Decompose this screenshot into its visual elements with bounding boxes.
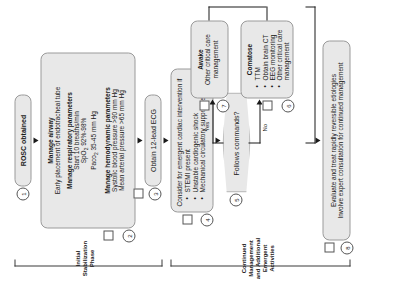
node-manage-airway-respiratory-hemodynamics[interactable]: Manage airway Early placement of endotra…	[40, 52, 135, 228]
phase-continued-line-5: Activities	[268, 224, 275, 283]
node-1-title: ROSC obtained	[19, 114, 27, 165]
edge-awake-merge	[208, 6, 209, 20]
node-7-title: Awake	[196, 23, 203, 95]
edge-merge-to-node8	[305, 6, 315, 7]
node-6-bullet-4: Other critical care management	[275, 24, 290, 85]
node-6-title: Comatose	[245, 24, 252, 94]
node-awake-pathway[interactable]: Awake Other critical care management	[190, 20, 228, 98]
node-2-group-1-heading: Manage airway	[46, 55, 53, 225]
phase-continued-line-2: Management	[247, 224, 254, 283]
node-7-checkbox[interactable]	[199, 100, 209, 110]
node-1-number: 1	[16, 187, 29, 200]
node-evaluate-reversible-etiologies[interactable]: Evaluate and treat rapidly reversible et…	[322, 40, 350, 240]
arrow-2-to-3	[137, 138, 142, 144]
edge-no-horizontal	[259, 104, 260, 144]
node-2-group-3-line-2: Mean arterial pressure >65 mm Hg	[117, 55, 124, 225]
node-2-group-2-line-3: Paco2 35-45 mm Hg	[89, 55, 99, 225]
node-4-number: 4	[200, 213, 213, 226]
node-6-number: 6	[281, 99, 294, 112]
node-2-group-2-line-1: Start 10 breaths/min	[72, 55, 79, 225]
phase-continued-line-3: and Additional	[254, 224, 261, 283]
phase-initial-line-2: Stabilization	[81, 228, 88, 283]
node-3-number: 3	[148, 187, 161, 200]
edge-no-vertical	[248, 142, 260, 143]
arrow-3-to-4	[163, 138, 168, 144]
node-rosc-obtained[interactable]: ROSC obtained	[14, 94, 31, 186]
node-2-checkbox[interactable]	[103, 230, 113, 240]
edge-label-yes: Yes	[203, 121, 209, 131]
node-8-line-1: Evaluate and treat rapidly reversible et…	[329, 74, 336, 207]
node-8-line-2: Involve expert consultation for continue…	[336, 62, 343, 218]
node-4-checkbox[interactable]	[182, 214, 192, 224]
node-7-number: 7	[216, 99, 229, 112]
node-6-bullet-1: TTM	[253, 24, 260, 85]
arrow-no-to-comatose	[256, 99, 262, 104]
node-4-line-1: Consider for emergent cardiac interventi…	[175, 74, 182, 206]
edge-label-no: No	[261, 123, 267, 131]
node-4-bullet-1: STEMI present	[183, 74, 190, 197]
node-6-checkbox[interactable]	[262, 100, 272, 110]
node-2-group-2-line-2: SpO2 92%-98%	[79, 55, 89, 225]
node-2-group-3-line-1: Systolic blood pressure >90 mm Hg	[110, 55, 117, 225]
phase-label-continued-management: Continued Management and Additional Emer…	[240, 224, 274, 283]
node-obtain-12-lead-ecg[interactable]: Obtain 12-lead ECG	[144, 94, 161, 186]
node-7-line-2: management	[211, 23, 218, 95]
phase-initial-line-1: Initial	[74, 228, 81, 283]
node-comatose-pathway[interactable]: Comatose TTM Obtain brain CT EEG monitor…	[240, 20, 293, 98]
phase-continued-line-4: Emergent	[261, 224, 268, 283]
edge-merge-to-node8-horizontal	[314, 6, 315, 143]
node-2-group-3-heading: Manage hemodynamic parameters	[103, 55, 110, 225]
node-2-group-1-line-1: Early placement of endotracheal tube	[53, 55, 60, 225]
node-3-title: Obtain 12-lead ECG	[149, 108, 157, 171]
node-3-checkbox[interactable]	[133, 188, 143, 198]
arrow-1-to-2	[33, 138, 38, 144]
edge-merge-vertical	[208, 6, 266, 7]
node-6-bullet-2: Obtain brain CT	[261, 24, 268, 85]
node-2-group-2-heading: Manage respiratory parameters	[65, 55, 72, 225]
arrow-merge-to-node8	[315, 138, 320, 144]
node-8-number: 8	[340, 241, 353, 254]
node-7-line-1: Other critical care	[203, 23, 210, 95]
phase-label-initial-stabilization: Initial Stabilization Phase	[74, 228, 95, 283]
node-2-number: 2	[122, 229, 135, 242]
node-5-number: 5	[229, 193, 242, 206]
phase-initial-line-3: Phase	[88, 228, 95, 283]
edge-node8-stub	[305, 142, 315, 143]
node-6-bullet-3: EEG monitoring	[268, 24, 275, 85]
phase-continued-line-1: Continued	[240, 224, 247, 283]
edge-yes-horizontal	[212, 104, 213, 144]
edge-comatose-merge	[266, 6, 267, 20]
node-8-checkbox[interactable]	[324, 242, 334, 252]
